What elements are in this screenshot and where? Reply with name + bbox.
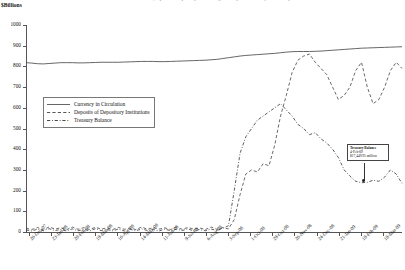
chart-legend: Currency in Circulation Deposits of Depo… xyxy=(43,97,155,128)
y-tick-mark xyxy=(23,191,26,192)
y-tick-label: 0 xyxy=(18,228,21,234)
y-tick-label: 700 xyxy=(13,83,21,89)
y-tick-label: 800 xyxy=(13,62,21,68)
legend-item-treasury-balance: Treasury Balance xyxy=(47,116,150,124)
y-tick-mark xyxy=(23,232,26,233)
y-tick-label: 400 xyxy=(13,145,21,151)
legend-swatch-dashed-icon xyxy=(47,110,70,115)
x-tick-label: 6-Aug-08 xyxy=(206,225,223,242)
legend-label-treasury-balance: Treasury Balance xyxy=(74,117,112,123)
annotation-callout: Treasury Balance 4-Feb-09 $17,449.95 mil… xyxy=(347,144,389,161)
y-axis-line xyxy=(26,25,27,232)
y-tick-label: 300 xyxy=(13,166,21,172)
y-tick-mark xyxy=(23,129,26,130)
x-tick-label: 1-Oct-08 xyxy=(250,226,266,242)
series-line-currency-in-circulation xyxy=(26,47,402,64)
y-tick-mark xyxy=(23,170,26,171)
x-tick-mark xyxy=(317,233,318,236)
y-tick-mark xyxy=(23,108,26,109)
legend-label-deposits-of-depository-institutions: Deposits of Depository Institutions xyxy=(74,109,150,115)
legend-swatch-dashdot-icon xyxy=(47,118,70,123)
y-tick-mark xyxy=(23,25,26,26)
y-tick-mark xyxy=(23,87,26,88)
legend-swatch-solid-icon xyxy=(47,102,70,107)
y-tick-mark xyxy=(23,211,26,212)
annotation-value: $17,449.95 million xyxy=(350,154,386,158)
y-tick-mark xyxy=(23,66,26,67)
chart-container: Reserve Balances (Deposits of Depository… xyxy=(0,0,405,270)
legend-item-deposits-of-depository-institutions: Deposits of Depository Institutions xyxy=(47,108,150,116)
y-tick-mark xyxy=(23,46,26,47)
y-tick-label: 100 xyxy=(13,207,21,213)
annotation-point-marker xyxy=(362,179,365,182)
x-tick-label: 3-Sep-08 xyxy=(228,225,244,241)
y-tick-mark xyxy=(23,149,26,150)
x-tick-label: 9-Jul-08 xyxy=(184,226,199,241)
y-axis-title: $Billions xyxy=(1,2,22,8)
y-tick-label: 200 xyxy=(13,187,21,193)
legend-item-currency-in-circulation: Currency in Circulation xyxy=(47,100,150,108)
series-line-deposits-of-depository-institutions xyxy=(26,54,402,230)
x-tick-mark xyxy=(140,233,141,236)
y-tick-label: 1000 xyxy=(10,21,21,27)
y-tick-label: 500 xyxy=(13,125,21,131)
y-tick-label: 900 xyxy=(13,42,21,48)
y-tick-label: 600 xyxy=(13,104,21,110)
legend-label-currency-in-circulation: Currency in Circulation xyxy=(74,101,125,107)
chart-title: Reserve Balances (Deposits of Depository… xyxy=(28,0,398,1)
